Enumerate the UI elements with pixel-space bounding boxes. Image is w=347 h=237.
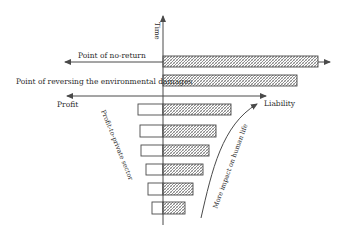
time-label: Time	[153, 22, 161, 40]
liability-bar-3	[163, 104, 231, 115]
liability-bar-1	[163, 56, 318, 67]
point-of-no-return-label: Point of no-return	[78, 51, 146, 60]
point-of-reversing-label: Point of reversing the environmental dam…	[16, 77, 192, 86]
profit-bar-4	[140, 125, 163, 137]
profit-bar-7	[148, 183, 163, 195]
profit-label: Profit	[57, 100, 78, 109]
profit-bar-8	[152, 202, 163, 214]
liability-bar-5	[163, 145, 209, 156]
profit-to-private-sector-label: Profit-to-private sector	[99, 109, 135, 182]
liability-bar-7	[163, 183, 193, 195]
profit-bar-3	[138, 104, 163, 115]
liability-label: Liability	[264, 99, 296, 108]
more-impact-label: More impact on human life	[211, 123, 249, 210]
liability-bar-8	[163, 202, 185, 214]
liability-bar-4	[163, 125, 216, 137]
profit-bar-6	[146, 164, 163, 175]
profit-liability-diagram: Time Point of no-return Point of reversi…	[0, 0, 347, 237]
liability-bar-6	[163, 164, 203, 175]
profit-bar-5	[141, 145, 163, 156]
